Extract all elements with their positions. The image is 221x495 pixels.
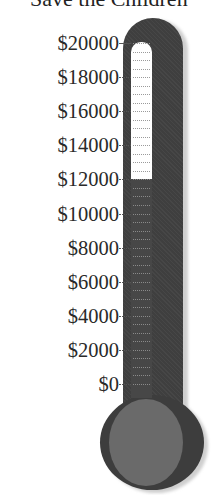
minor-tick — [133, 103, 150, 104]
scale-label-14000: $14000 — [58, 135, 120, 155]
thermometer-bulb-inner — [109, 399, 183, 486]
minor-tick — [133, 162, 150, 163]
scale-label-16000: $16000 — [58, 101, 120, 121]
minor-tick — [133, 282, 150, 283]
scale-label-8000: $8000 — [68, 238, 119, 258]
major-tick — [119, 282, 131, 283]
minor-tick — [133, 231, 150, 232]
scale-label-2000: $2000 — [68, 340, 119, 360]
major-tick — [119, 43, 131, 44]
scale-label-12000: $12000 — [58, 169, 120, 189]
minor-tick — [133, 290, 150, 291]
minor-tick — [133, 214, 150, 215]
minor-tick — [133, 384, 150, 385]
minor-tick — [133, 86, 150, 87]
major-tick — [119, 248, 131, 249]
minor-tick — [133, 273, 150, 274]
minor-tick — [133, 324, 150, 325]
minor-tick — [133, 43, 150, 44]
thermometer-fill-level — [131, 179, 152, 398]
minor-tick — [133, 341, 150, 342]
minor-tick — [133, 333, 150, 334]
minor-tick — [133, 60, 150, 61]
minor-tick — [133, 265, 150, 266]
minor-tick — [133, 256, 150, 257]
major-tick — [119, 214, 131, 215]
major-tick — [119, 384, 131, 385]
minor-tick — [133, 94, 150, 95]
major-tick — [119, 316, 131, 317]
minor-tick — [133, 171, 150, 172]
major-tick — [119, 77, 131, 78]
minor-tick — [133, 299, 150, 300]
major-tick — [119, 145, 131, 146]
minor-tick — [133, 205, 150, 206]
minor-tick — [133, 154, 150, 155]
minor-tick — [133, 239, 150, 240]
minor-tick — [133, 145, 150, 146]
major-tick — [119, 179, 131, 180]
scale-label-0: $0 — [99, 374, 120, 394]
minor-tick — [133, 316, 150, 317]
minor-tick — [133, 137, 150, 138]
minor-tick — [133, 52, 150, 53]
minor-tick — [133, 179, 150, 180]
minor-tick — [133, 120, 150, 121]
minor-tick — [133, 367, 150, 368]
minor-tick — [133, 375, 150, 376]
minor-tick — [133, 77, 150, 78]
scale-label-18000: $18000 — [58, 67, 120, 87]
scale-label-6000: $6000 — [68, 272, 119, 292]
minor-tick — [133, 222, 150, 223]
scale-label-4000: $4000 — [68, 306, 119, 326]
minor-tick — [133, 111, 150, 112]
minor-tick — [133, 196, 150, 197]
scale-label-10000: $10000 — [58, 204, 120, 224]
minor-tick — [133, 188, 150, 189]
chart-title: Save the Children — [30, 0, 188, 12]
minor-tick — [133, 128, 150, 129]
major-tick — [119, 350, 131, 351]
minor-tick — [133, 307, 150, 308]
scale-label-20000: $20000 — [58, 33, 120, 53]
minor-tick — [133, 69, 150, 70]
minor-tick — [133, 248, 150, 249]
minor-tick — [133, 358, 150, 359]
major-tick — [119, 111, 131, 112]
minor-tick — [133, 350, 150, 351]
